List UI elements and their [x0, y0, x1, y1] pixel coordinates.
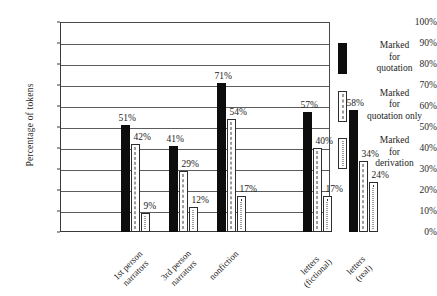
bar-pattern-line — [135, 147, 136, 229]
y-axis-tick-label: 100% — [385, 17, 437, 27]
bar-value-label: 41% — [167, 135, 184, 145]
bar-value-label: 40% — [316, 137, 333, 147]
legend-label-line: Marked — [352, 135, 437, 147]
bar-pattern-line — [373, 185, 374, 229]
y-axis-tick-label: 10% — [385, 206, 437, 216]
legend-label-line: derivation — [352, 158, 437, 170]
y-axis-tick-mark — [57, 64, 60, 65]
y-axis-tick-mark — [57, 22, 60, 23]
legend-item-dotted: Markedforderivation — [338, 135, 437, 170]
bar — [141, 213, 150, 232]
bar-value-label: 12% — [192, 196, 209, 206]
y-axis-tick-mark — [57, 190, 60, 191]
y-axis-title: Percentage of tokens — [25, 45, 35, 205]
y-axis-tick-mark — [57, 43, 60, 44]
y-axis-tick-mark — [57, 232, 60, 233]
legend-label: Markedforderivation — [352, 135, 437, 170]
bar-value-label: 29% — [182, 160, 199, 170]
gridline — [61, 86, 329, 87]
bar — [323, 196, 332, 232]
bar-value-label: 17% — [326, 185, 343, 195]
legend-item-solid: Markedforquotation — [338, 40, 437, 75]
bar — [189, 207, 198, 232]
legend-label: Markedforquotation — [352, 40, 437, 75]
y-axis-tick-mark — [57, 211, 60, 212]
bar — [369, 182, 378, 232]
bar-pattern-line — [241, 199, 242, 229]
bar — [179, 171, 188, 232]
bar-chart: Percentage of tokens 100%90%80%70%60%50%… — [0, 0, 437, 296]
legend-label-line: for — [352, 147, 437, 159]
y-axis-tick-label: 20% — [385, 185, 437, 195]
bar-pattern-line — [183, 174, 184, 229]
legend-label-line: quotation only — [352, 111, 437, 123]
legend-item-dashed: Markedforquotation only — [338, 88, 437, 123]
gridline — [61, 44, 329, 45]
bar — [121, 125, 130, 232]
legend-label: Markedforquotation only — [352, 88, 437, 123]
legend-swatch-pattern-line — [342, 141, 343, 166]
bar-pattern-line — [193, 210, 194, 229]
bar-value-label: 54% — [230, 108, 247, 118]
bar-value-label: 17% — [240, 185, 257, 195]
bar-pattern-line — [231, 122, 232, 229]
bar-pattern-line — [327, 199, 328, 229]
legend-swatch-dashed — [338, 91, 347, 122]
legend-swatch-solid — [338, 43, 347, 74]
legend-label-line: quotation — [352, 63, 437, 75]
gridline — [61, 191, 329, 192]
y-axis-tick-mark — [57, 127, 60, 128]
legend-label-line: for — [352, 99, 437, 111]
y-axis-tick-mark — [57, 169, 60, 170]
legend-swatch-dotted — [338, 138, 347, 169]
bar-value-label: 9% — [144, 202, 157, 212]
bar — [131, 144, 140, 232]
y-axis-tick-mark — [57, 106, 60, 107]
y-axis-tick-mark — [57, 85, 60, 86]
gridline — [61, 128, 329, 129]
bar — [217, 83, 226, 232]
bar-value-label: 42% — [134, 133, 151, 143]
gridline — [61, 107, 329, 108]
bar — [237, 196, 246, 232]
bar — [227, 119, 236, 232]
bar-value-label: 71% — [215, 72, 232, 82]
legend-label-line: Marked — [352, 88, 437, 100]
bar — [169, 146, 178, 232]
bar-pattern-line — [145, 216, 146, 229]
y-axis-tick-mark — [57, 148, 60, 149]
bar — [313, 148, 322, 232]
gridline — [61, 149, 329, 150]
y-axis-tick-label: 0% — [385, 227, 437, 237]
legend-label-line: Marked — [352, 40, 437, 52]
bar — [303, 112, 312, 232]
legend-swatch-pattern-line — [342, 94, 343, 119]
bar-pattern-line — [317, 151, 318, 229]
legend-label-line: for — [352, 52, 437, 64]
bar-value-label: 51% — [119, 114, 136, 124]
gridline — [61, 65, 329, 66]
gridline — [61, 170, 329, 171]
bar-value-label: 57% — [301, 101, 318, 111]
chart-legend: MarkedforquotationMarkedforquotation onl… — [338, 40, 437, 183]
